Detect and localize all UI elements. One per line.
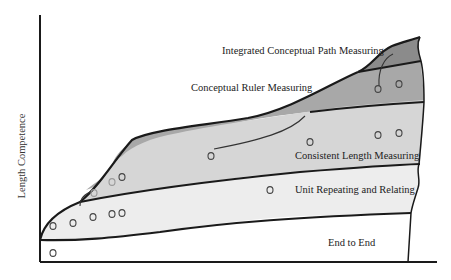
label-conceptual-ruler: Conceptual Ruler Measuring — [191, 82, 313, 93]
label-integrated-conceptual-path: Integrated Conceptual Path Measuring — [222, 45, 385, 56]
label-unit-repeating: Unit Repeating and Relating — [295, 184, 416, 195]
label-end-to-end: End to End — [328, 237, 376, 248]
data-point — [50, 250, 56, 257]
label-consistent-length: Consistent Length Measuring — [295, 150, 420, 161]
learning-trajectory-diagram: Length Competence Integrated Conceptual … — [0, 0, 451, 280]
y-axis-label: Length Competence — [16, 113, 27, 198]
